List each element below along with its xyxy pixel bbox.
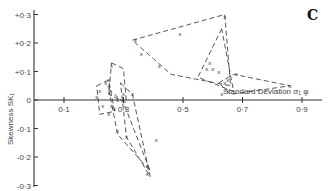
envelope-lower-long [109,89,151,172]
data-point: x [179,31,182,37]
data-point: x [211,66,214,72]
chart-svg: +0·3+0·2+0·10-0·1-0·2-0·3 0·10·30·50·70·… [0,0,331,191]
data-point: x [110,63,113,69]
y-tick-label: 0 [27,96,32,105]
data-point: x [146,171,149,177]
data-point: x [131,91,134,97]
data-point: x [125,134,128,140]
data-point: x [158,63,161,69]
envelope-upper-large [132,15,230,86]
data-point: x [107,111,110,117]
y-tick-label: +0·1 [15,68,32,77]
y-tick-label: -0·3 [17,182,32,191]
data-point: x [155,137,158,143]
data-point: x [98,88,101,94]
y-tick-label: -0·1 [17,125,32,134]
data-point: x [223,14,226,20]
panel-label: C [307,7,318,23]
data-point: x [113,106,116,112]
data-point: x [140,51,143,57]
data-point: x [146,163,149,169]
x-tick-label: 0·7 [237,105,249,114]
data-point: x [116,128,119,134]
x-tick-label: 0·1 [58,105,70,114]
y-tick-label: -0·2 [17,153,32,162]
data-point: x [205,66,208,72]
data-point: x [107,83,110,89]
x-axis-title: Standard Deviation σ₁ φ [223,87,308,96]
y-axis-title: Skewness SK₁ [6,93,15,145]
data-point: x [226,77,229,83]
y-tick-label: +0·3 [15,11,32,20]
data-point: x [217,69,220,75]
data-point: x [101,103,104,109]
y-tick-label: +0·2 [15,39,32,48]
data-point: x [116,97,119,103]
x-tick-label: 0·5 [177,105,189,114]
data-point: x [134,37,137,43]
data-point: x [235,71,238,77]
data-point: x [122,91,125,97]
data-point: x [95,94,98,100]
x-tick-label: 0·9 [296,105,308,114]
